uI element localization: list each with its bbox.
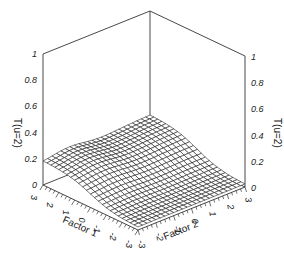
y-tick <box>192 209 194 214</box>
x-tick <box>101 213 103 216</box>
x-tick-label: -2 <box>108 233 118 241</box>
y-tick <box>236 191 237 194</box>
y-tick <box>165 219 166 222</box>
y-tick <box>187 210 188 213</box>
z-tick-label-left: 0.8 <box>24 75 37 85</box>
back-top-right-edge <box>150 11 245 56</box>
x-tick <box>88 208 91 213</box>
y-tick <box>245 187 247 192</box>
x-tick <box>53 191 55 194</box>
y-tick <box>183 212 184 215</box>
x-tick <box>61 194 63 197</box>
y-tick-label: 1 <box>207 211 218 218</box>
x-tick <box>93 209 95 212</box>
y-tick <box>151 225 152 228</box>
x-tick <box>103 215 106 220</box>
y-tick-label: 3 <box>243 196 254 203</box>
z-tick-label-left: 0 <box>32 180 37 190</box>
x-tick <box>56 193 59 198</box>
x-tick <box>77 202 79 205</box>
y-tick <box>169 217 170 220</box>
x-tick-label: 2 <box>45 202 55 208</box>
z-tick-label-right: 1 <box>251 52 256 62</box>
y-tick <box>227 194 229 199</box>
z-tick-label-left: 0.4 <box>24 128 37 138</box>
x-tick <box>108 217 110 220</box>
x-tick <box>128 226 130 229</box>
y-tick <box>160 221 161 224</box>
x-tick-label: -3 <box>124 240 134 248</box>
z-tick-label-right: 0 <box>251 183 256 193</box>
y-tick <box>174 216 176 221</box>
back-top-left-edge <box>43 11 150 54</box>
x-tick <box>40 185 43 190</box>
y-tick <box>205 203 206 206</box>
y-axis-title: Factor 2 <box>162 218 201 242</box>
z-tick-label-right: 0.8 <box>251 78 264 88</box>
y-tick <box>214 200 215 203</box>
z-axis-title-left: T(u=2) <box>12 118 23 148</box>
y-tick-label: 2 <box>225 203 236 211</box>
z-tick-label-left: 0.2 <box>24 154 37 164</box>
x-tick <box>116 221 118 224</box>
z-tick-label-right: 0.6 <box>251 104 264 114</box>
x-tick <box>119 223 122 228</box>
x-tick <box>69 198 71 201</box>
y-tick <box>178 214 179 217</box>
z-axis-title-right: T(u=2) <box>272 118 283 148</box>
x-tick <box>132 228 134 231</box>
y-tick <box>218 198 219 201</box>
x-tick <box>135 230 138 235</box>
x-tick-label: 3 <box>29 195 39 200</box>
y-tick <box>232 192 233 195</box>
y-tick <box>241 189 242 192</box>
y-tick <box>196 207 197 210</box>
z-tick-label-left: 1 <box>32 49 37 59</box>
y-tick-label: -3 <box>136 239 147 249</box>
x-tick <box>72 200 75 205</box>
y-tick <box>200 205 201 208</box>
x-tick <box>124 224 126 227</box>
z-tick-label-left: 0.6 <box>24 101 37 111</box>
y-tick <box>142 228 143 231</box>
z-tick-label-right: 0.4 <box>251 131 264 141</box>
surface-plot: 3210-1-2-3-3-2-10123000.20.20.40.40.60.6… <box>0 0 284 257</box>
y-tick <box>138 230 140 235</box>
y-tick <box>147 226 148 229</box>
x-tick <box>97 211 99 214</box>
x-tick <box>65 196 67 199</box>
x-tick <box>112 219 114 222</box>
z-tick-label-right: 0.2 <box>251 157 264 167</box>
x-tick <box>49 189 51 192</box>
y-tick <box>223 196 224 199</box>
x-tick <box>45 187 47 190</box>
y-tick <box>156 223 158 228</box>
x-tick <box>81 204 83 207</box>
y-tick <box>209 201 211 206</box>
x-tick <box>85 206 87 209</box>
